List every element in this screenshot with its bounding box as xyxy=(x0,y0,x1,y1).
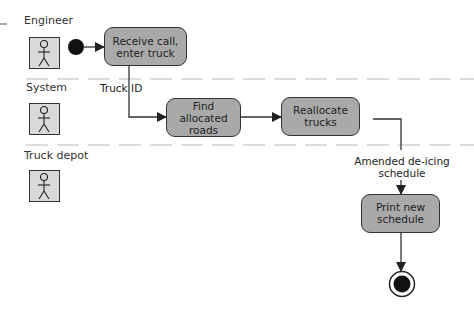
lane-label-system: System xyxy=(26,81,67,94)
end-node-inner-icon xyxy=(394,276,411,293)
activity-label-line: Reallocate xyxy=(293,104,348,116)
activity-label-line: Receive call, xyxy=(113,35,179,47)
lane-label-engineer: Engineer xyxy=(24,14,73,27)
flow-label-line: schedule xyxy=(346,167,458,179)
actor-system-icon xyxy=(29,103,60,135)
start-node-icon xyxy=(68,39,84,55)
actor-truck-depot-icon xyxy=(29,170,60,202)
activity-label-line: enter truck xyxy=(113,47,179,59)
flow-label-line: Amended de-icing xyxy=(346,155,458,167)
flow-label-amended-schedule: Amended de-icing schedule xyxy=(346,155,458,179)
activity-label-line: trucks xyxy=(293,116,348,128)
lane-label-truck-depot: Truck depot xyxy=(24,149,88,162)
activity-label-line: schedule xyxy=(376,213,425,225)
activity-label-line: allocated xyxy=(179,112,227,124)
activity-print-new-schedule: Print newschedule xyxy=(361,194,440,233)
activity-label-line: roads xyxy=(179,124,227,136)
activity-label-line: Find xyxy=(179,100,227,112)
activity-label-line: Print new xyxy=(376,201,425,213)
activity-find-allocated-roads: Findallocatedroads xyxy=(166,98,241,137)
activity-receive-call: Receive call,enter truck xyxy=(104,27,187,66)
activity-reallocate-trucks: Reallocatetrucks xyxy=(281,97,360,136)
actor-engineer-icon xyxy=(29,37,60,69)
flow-label-truck-id: Truck ID xyxy=(100,82,142,94)
